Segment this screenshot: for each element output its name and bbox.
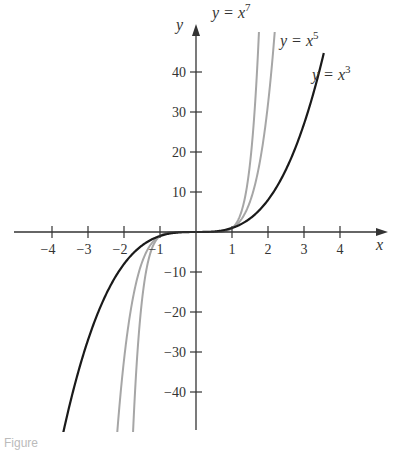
curve-labels: y = x7y = x5y = x3 xyxy=(210,1,351,84)
y-tick-label: 30 xyxy=(172,105,186,120)
y-axis-label: y xyxy=(174,16,184,34)
x-tick-label: −3 xyxy=(77,242,92,257)
figure-caption: Figure xyxy=(4,436,38,450)
axes xyxy=(14,24,388,430)
label-x3: y = x3 xyxy=(310,63,351,84)
x-tick-label: −4 xyxy=(41,242,56,257)
y-tick-label: −40 xyxy=(164,385,186,400)
y-tick-label: −20 xyxy=(164,305,186,320)
x-axis-label: x xyxy=(375,236,383,253)
y-tick-label: 40 xyxy=(172,65,186,80)
x-tick-label: 1 xyxy=(229,242,236,257)
curve-x3 xyxy=(63,53,324,435)
label-x5: y = x5 xyxy=(278,29,319,50)
x-tick-label: 3 xyxy=(301,242,308,257)
y-tick-label: 10 xyxy=(172,185,186,200)
x-axis-arrow-icon xyxy=(376,228,388,236)
x-tick-label: 2 xyxy=(265,242,272,257)
x-tick-label: 4 xyxy=(337,242,344,257)
y-tick-label: −10 xyxy=(164,265,186,280)
y-tick-label: 20 xyxy=(172,145,186,160)
y-tick-label: −30 xyxy=(164,345,186,360)
x-tick-label: −2 xyxy=(113,242,128,257)
y-axis-arrow-icon xyxy=(192,24,200,36)
x-tick-label: −1 xyxy=(149,242,164,257)
label-x7: y = x7 xyxy=(210,1,251,22)
